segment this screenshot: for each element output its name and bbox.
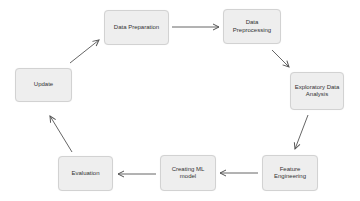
node-label: Update bbox=[34, 81, 53, 89]
node-label: Feature Engineering bbox=[265, 166, 315, 181]
node-label: Creating ML model bbox=[163, 166, 213, 181]
arrow-evaluation-to-update bbox=[50, 116, 72, 152]
arrow-update-to-preparation bbox=[70, 40, 99, 63]
node-exploratory-data-analysis: Exploratory Data Analysis bbox=[290, 72, 344, 110]
arrow-preprocessing-to-eda bbox=[272, 50, 289, 67]
node-creating-ml-model: Creating ML model bbox=[160, 155, 216, 191]
node-data-preprocessing: Data Preprocessing bbox=[223, 9, 281, 44]
node-label: Exploratory Data Analysis bbox=[293, 84, 341, 99]
node-label: Data Preprocessing bbox=[226, 19, 278, 34]
node-feature-engineering: Feature Engineering bbox=[262, 155, 318, 191]
node-evaluation: Evaluation bbox=[58, 156, 113, 191]
arrow-eda-to-feature-engineering bbox=[295, 115, 308, 149]
node-label: Evaluation bbox=[71, 170, 99, 178]
node-data-preparation: Data Preparation bbox=[104, 10, 169, 45]
ml-lifecycle-diagram: Data Preparation Data Preprocessing Expl… bbox=[0, 0, 360, 201]
node-update: Update bbox=[15, 68, 72, 102]
node-label: Data Preparation bbox=[114, 24, 159, 32]
